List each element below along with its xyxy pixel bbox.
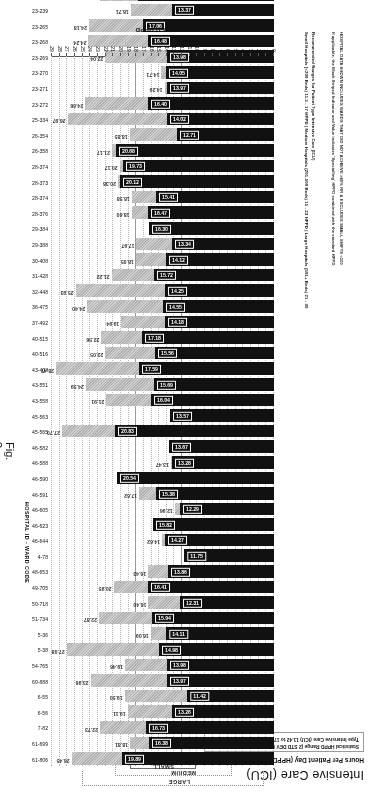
axis-tick-label: 17	[141, 46, 147, 52]
axis-tick-label: 0	[271, 49, 277, 52]
note-line-4: Small Hospitals (<200 Beds) 11.5 - 17 HP…	[304, 32, 309, 309]
ward-code-label: 29-384	[32, 227, 48, 232]
ward-code-label: 54-765	[32, 664, 48, 669]
bar-specialling-combined	[125, 659, 167, 672]
chart-row: 16.4012.3150-718	[52, 594, 274, 610]
axis-tick	[265, 53, 266, 56]
axis-tick-label: 29	[49, 46, 55, 52]
ward-code-label: 30-408	[32, 259, 48, 264]
ward-code-label: 6-56	[38, 711, 48, 716]
bar-total-value-label: 24.40	[72, 305, 85, 310]
axis-tick	[250, 53, 251, 56]
axis-tick-label: 11	[187, 47, 193, 52]
axis-tick	[59, 53, 60, 56]
bar-value-label: 14.55	[166, 302, 185, 311]
ward-code-label: 50-718	[32, 602, 48, 607]
axis-tick	[204, 53, 205, 56]
ward-code-label: 46-644	[32, 539, 48, 544]
bar-value-label: 14.25	[168, 287, 187, 296]
bar-specialling-combined	[99, 612, 152, 625]
bar-specialling-combined	[151, 627, 166, 640]
axis-tick-label: 28	[57, 46, 63, 52]
ward-code-label: 45-563	[32, 414, 48, 419]
bar-total-value-label: 19.11	[113, 711, 126, 716]
bar-required-hppd	[120, 175, 274, 188]
bar-total-value-label: 20.17	[105, 165, 118, 170]
bar-total-value-label: 13.47	[156, 461, 169, 466]
chart-row: 22.0515.5640-516	[52, 345, 274, 361]
ward-code-label: 40-515	[32, 336, 48, 341]
bar-value-label: 16.30	[152, 224, 171, 233]
ward-code-label: 61-699	[32, 742, 48, 747]
bar-specialling-combined	[131, 4, 172, 17]
chart-row: 28.4717.5943-408	[52, 361, 274, 377]
bar-specialling-combined	[125, 690, 187, 703]
axis-tick	[235, 53, 236, 56]
axis-tick-label: 22	[103, 46, 109, 52]
bar-value-label: 12.31	[183, 599, 202, 608]
axis-tick-label: 15	[156, 46, 162, 52]
axis-tick	[51, 53, 52, 56]
axis-tick-label: 3	[248, 49, 254, 52]
chart-row: 19.1113.266-56	[52, 704, 274, 720]
bar-total-value-label: 12.96	[160, 508, 173, 513]
ward-code-label: 4-78	[38, 555, 48, 560]
bar-value-label: 13.26	[176, 708, 195, 717]
chart-row: 16.0914.115-36	[52, 626, 274, 642]
axis-tick	[105, 53, 106, 56]
ward-code-label: 46-582	[32, 446, 48, 451]
ward-code-label: 61-806	[32, 758, 48, 763]
bar-total-value-label: 27.70	[47, 430, 60, 435]
bar-value-label: 11.42	[190, 692, 209, 701]
axis-tick-label: 5	[233, 49, 239, 52]
bar-value-label: 13.37	[175, 6, 194, 15]
bar-value-label: 20.54	[120, 474, 139, 483]
bar-specialling-combined	[67, 643, 160, 656]
bar-value-label: 14.11	[169, 630, 188, 639]
chart-row: 23.9613.9760-888	[52, 672, 274, 688]
chart-row: 20.9516.4149-705	[52, 579, 274, 595]
bar-total-value-label: 19.46	[110, 664, 123, 669]
axis-tick-label: 25	[80, 46, 86, 52]
bar-value-label: 15.56	[158, 349, 177, 358]
bar-value-label: 16.40	[151, 100, 170, 109]
bar-value-label: 16.38	[152, 739, 171, 748]
axis-tick	[158, 53, 159, 56]
chart-row: 14.7114.0523-270	[52, 64, 274, 80]
chart-row: 14.6214.2746-644	[52, 532, 274, 548]
chart-row: 24.4014.5536-475	[52, 298, 274, 314]
bar-value-label: 14.12	[169, 256, 188, 265]
chart-row: 17.6215.3846-591	[52, 485, 274, 501]
bar-total-value-label: 22.73	[85, 726, 98, 731]
bar-total-value-label: 22.05	[90, 352, 103, 357]
axis-tick	[151, 53, 152, 56]
axis-tick	[120, 53, 121, 56]
bar-value-label: 17.18	[146, 334, 165, 343]
axis-tick	[74, 53, 75, 56]
bar-specialling-combined	[130, 128, 177, 141]
axis-tick	[97, 53, 98, 56]
bar-specialling-combined	[128, 705, 173, 718]
bar-total-value-label: 20.95	[99, 586, 112, 591]
chart-row: 16.3029-384	[52, 220, 274, 236]
chart-row: 19.9414.1837-492	[52, 314, 274, 330]
axis-tick	[212, 53, 213, 56]
axis-tick-label: 19	[126, 46, 132, 52]
ward-code-label: 23-268	[32, 40, 48, 45]
chart-row: 26.4519.8961-806	[52, 750, 274, 766]
bar-value-label: 16.73	[149, 723, 168, 732]
bar-value-label: 15.41	[159, 193, 178, 202]
ward-code-label: 46-591	[32, 492, 48, 497]
chart-row: 22.7316.737-82	[52, 719, 274, 735]
ward-code-label: 28-374	[32, 165, 48, 170]
ward-code-label: 23-269	[32, 56, 48, 61]
bar-total-value-label: 24.66	[70, 103, 83, 108]
bar-value-label: 13.28	[175, 458, 194, 467]
bar-value-label: 17.59	[142, 365, 161, 374]
rotated-figure-canvas: Intensive Care (ICU) Hours Per Patient D…	[0, 0, 382, 802]
ward-code-label: 46-605	[32, 508, 48, 513]
bar-specialling-combined	[105, 347, 155, 360]
chart-row: 16.4313.8648-653	[52, 563, 274, 579]
ward-code-label: 32-448	[32, 290, 48, 295]
axis-tick-label: 10	[194, 46, 200, 52]
